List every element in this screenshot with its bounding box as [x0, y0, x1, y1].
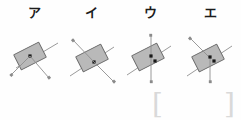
center-dot-c-2 — [153, 59, 156, 62]
center-dot-d-1 — [208, 55, 211, 58]
figure-option-a — [4, 30, 64, 88]
figure-row — [0, 30, 241, 88]
block-d — [192, 44, 225, 72]
answer-bracket-right: ] — [224, 92, 233, 116]
center-dot-c-1 — [149, 54, 152, 57]
figure-sheet: ア イ ウ エ — [0, 0, 241, 120]
option-label-c: ウ — [135, 4, 165, 22]
answer-bracket-left: [ — [152, 92, 161, 116]
option-label-row: ア イ ウ エ — [0, 4, 241, 26]
option-label-d: エ — [195, 4, 225, 22]
figure-option-c — [121, 30, 181, 88]
option-label-a: ア — [19, 4, 49, 22]
center-dot-d-2 — [212, 59, 215, 62]
block-c — [132, 43, 165, 71]
figure-option-d — [180, 30, 240, 88]
arrow-lower-right-b — [94, 62, 114, 82]
figure-option-b — [62, 30, 122, 88]
answer-bracket-row: [ ] — [0, 90, 241, 118]
option-label-b: イ — [76, 4, 106, 22]
